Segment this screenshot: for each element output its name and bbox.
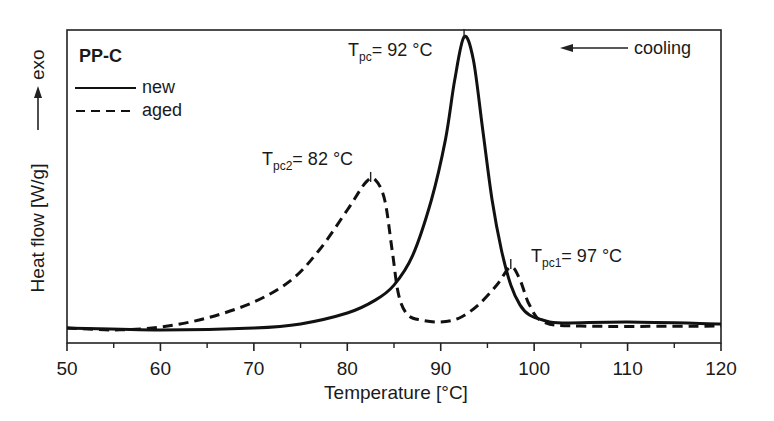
legend-new-label: new xyxy=(142,77,176,97)
annotation-tpc2-sub: pc2 xyxy=(273,159,293,173)
annotation-tpc2-value: = 82 °C xyxy=(292,149,353,169)
x-axis-ticks xyxy=(67,343,721,351)
x-axis-label: Temperature [°C] xyxy=(324,382,468,403)
x-tick-label: 90 xyxy=(430,358,451,379)
annotation-tpc1-value: = 97 °C xyxy=(561,246,622,266)
annotation-tpc1-sub: pc1 xyxy=(542,256,562,270)
exo-label: exo xyxy=(27,49,48,80)
x-tick-label: 50 xyxy=(56,358,77,379)
y-axis-label-group: Heat flow [W/g] exo xyxy=(27,49,48,292)
annotation-tpc-main: T xyxy=(348,40,359,60)
x-tick-label: 80 xyxy=(337,358,358,379)
annotation-tpc1: Tpc1= 97 °C xyxy=(531,246,622,270)
exo-arrow-icon xyxy=(34,86,42,98)
legend: PP-C new aged xyxy=(75,46,182,120)
x-axis-tick-labels: 5060708090100110120 xyxy=(56,358,736,379)
cooling-arrow-icon xyxy=(560,44,573,52)
svg-text:Tpc= 92 °C: Tpc= 92 °C xyxy=(348,40,432,64)
x-tick-label: 70 xyxy=(243,358,264,379)
x-tick-label: 100 xyxy=(518,358,550,379)
peak-markers xyxy=(371,29,511,269)
annotation-tpc2: Tpc2= 82 °C xyxy=(262,149,353,173)
cooling-annotation: cooling xyxy=(560,38,691,58)
svg-text:Tpc2= 82 °C: Tpc2= 82 °C xyxy=(262,149,353,173)
y-axis-label: Heat flow [W/g] xyxy=(27,164,48,293)
x-tick-label: 110 xyxy=(612,358,642,379)
chart-title: PP-C xyxy=(79,46,122,66)
annotation-tpc1-main: T xyxy=(531,246,542,266)
svg-text:Tpc1= 97 °C: Tpc1= 97 °C xyxy=(531,246,622,270)
x-tick-label: 120 xyxy=(705,358,737,379)
dsc-chart: 5060708090100110120 Temperature [°C] Hea… xyxy=(0,0,774,421)
annotation-tpc-sub: pc xyxy=(359,50,372,64)
annotation-tpc2-main: T xyxy=(262,149,273,169)
annotation-tpc-value: = 92 °C xyxy=(372,40,433,60)
annotation-tpc: Tpc= 92 °C xyxy=(348,40,432,64)
x-tick-label: 60 xyxy=(150,358,171,379)
series-aged-line xyxy=(67,178,721,330)
legend-aged-label: aged xyxy=(142,100,182,120)
cooling-label: cooling xyxy=(634,38,691,58)
